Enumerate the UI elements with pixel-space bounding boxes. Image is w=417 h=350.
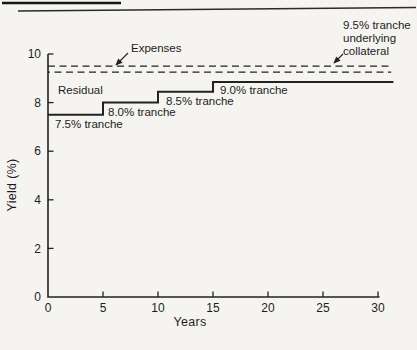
- tranche-75-label: 7.5% tranche: [55, 118, 123, 131]
- x-tick-label: 15: [206, 301, 220, 315]
- x-tick-label: 30: [371, 301, 385, 315]
- collateral-arrow: [334, 54, 343, 63]
- y-tick-label: 10: [28, 47, 42, 61]
- x-tick-label: 10: [151, 301, 165, 315]
- x-axis-title: Years: [173, 315, 206, 329]
- residual-label: Residual: [58, 84, 103, 97]
- figure-page: 0246810051015202530YearsYield (%) Expens…: [0, 0, 417, 350]
- page-top-rule: [18, 8, 416, 12]
- collateral-label: 9.5% tranche underlying collateral: [343, 19, 411, 58]
- expenses-label: Expenses: [131, 42, 182, 55]
- y-tick-label: 4: [34, 193, 41, 207]
- y-tick-label: 8: [34, 96, 41, 110]
- x-tick-label: 25: [316, 301, 330, 315]
- x-tick-label: 0: [45, 301, 52, 315]
- y-axis-title: Yield (%): [5, 159, 19, 212]
- x-tick-label: 20: [261, 301, 275, 315]
- expenses-arrow: [116, 53, 128, 65]
- y-tick-label: 2: [34, 242, 41, 256]
- tranche-90-label: 9.0% tranche: [220, 84, 288, 97]
- y-tick-label: 6: [34, 144, 41, 158]
- y-tick-label: 0: [34, 290, 41, 304]
- x-tick-label: 5: [100, 301, 107, 315]
